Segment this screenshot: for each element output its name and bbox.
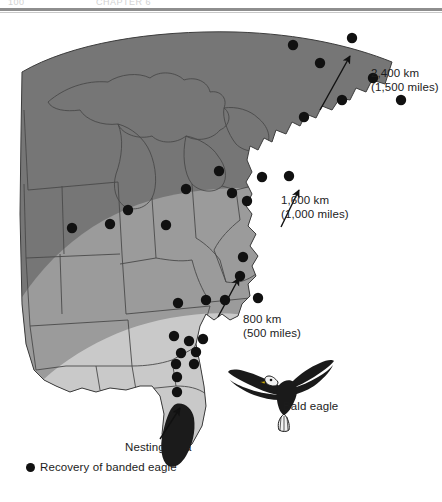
recovery-dot (257, 172, 267, 182)
recovery-dot (253, 293, 263, 303)
distance-label-800km-miles: (500 miles) (243, 327, 301, 341)
distance-label-2400km-km: 2,400 km (371, 67, 439, 81)
recovery-dot (242, 196, 252, 206)
recovery-dot (220, 295, 230, 305)
distance-label-800km-km: 800 km (243, 313, 301, 327)
recovery-dot (288, 40, 298, 50)
recovery-dot (173, 298, 183, 308)
recovery-dot (396, 95, 406, 105)
recovery-dot (337, 95, 347, 105)
recovery-dot (184, 336, 194, 346)
page-running-head-ghost: CHAPTER 6 (96, 0, 151, 6)
distance-label-1600km-km: 1,600 km (281, 194, 349, 208)
recovery-dot (123, 205, 133, 215)
page-header-rule (0, 8, 442, 11)
recovery-dot (214, 166, 224, 176)
distance-label-1600km: 1,600 km (1,000 miles) (281, 194, 349, 221)
recovery-dot (315, 58, 325, 68)
recovery-dot (189, 359, 199, 369)
recovery-dot (299, 112, 309, 122)
recovery-dot (169, 331, 179, 341)
recovery-dot (284, 171, 294, 181)
recovery-dot (198, 334, 208, 344)
recovery-dot (171, 359, 181, 369)
map-legend: Recovery of banded eagle (26, 461, 177, 473)
distance-label-800km: 800 km (500 miles) (243, 313, 301, 340)
distance-label-1600km-miles: (1,000 miles) (281, 208, 349, 222)
recovery-dot (105, 219, 115, 229)
page-folio-ghost: 100 (8, 0, 25, 6)
recovery-dot (161, 220, 171, 230)
distance-label-2400km-miles: (1,500 miles) (371, 81, 439, 95)
recovery-dot (227, 188, 237, 198)
recovery-dot (67, 223, 77, 233)
recovery-dot-icon (26, 463, 35, 472)
legend-label-recovery: Recovery of banded eagle (40, 461, 177, 473)
recovery-dot (181, 184, 191, 194)
recovery-dot (235, 271, 245, 281)
recovery-dot (191, 347, 201, 357)
recovery-dot (347, 33, 357, 43)
nesting-area-label: Nesting area (125, 441, 191, 455)
figure-page: 100 CHAPTER 6 (0, 0, 442, 502)
map-figure: 2,400 km (1,500 miles) 1,600 km (1,000 m… (0, 14, 442, 502)
distance-label-2400km: 2,400 km (1,500 miles) (371, 67, 439, 94)
recovery-dot (172, 387, 182, 397)
page-header-rule-thin (0, 12, 442, 13)
recovery-dot (201, 295, 211, 305)
bald-eagle-label: Bald eagle (283, 400, 338, 414)
recovery-dot (238, 252, 248, 262)
recovery-dot (172, 372, 182, 382)
recovery-dot (176, 348, 186, 358)
